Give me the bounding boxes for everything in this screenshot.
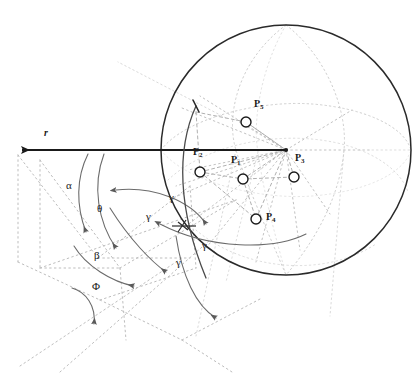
angle-label-theta: θ — [97, 203, 102, 214]
point-marker-P5 — [241, 117, 251, 127]
vector-origin-dot — [284, 148, 288, 152]
angle-label-beta: β — [94, 250, 100, 261]
angle-label-gamma-4: γ — [176, 257, 181, 268]
arc-beta — [74, 246, 134, 286]
angle-label-gamma-1: γ — [169, 192, 174, 203]
sphere-meridians — [118, 25, 412, 336]
diagram-svg — [0, 0, 420, 376]
angle-label-gamma-3: γ — [202, 240, 207, 251]
point-label-P5: P5 — [254, 99, 264, 111]
centre-fan-rays — [168, 96, 372, 262]
arc-gamma-1 — [116, 189, 206, 224]
point-marker-P1 — [238, 174, 248, 184]
arc-gamma-3 — [183, 106, 206, 278]
point-label-P3: P3 — [295, 153, 305, 165]
arc-gamma-2 — [110, 208, 166, 272]
point-marker-P2 — [195, 167, 205, 177]
point-label-P1: P1 — [231, 155, 241, 167]
vector-label-r: r — [44, 128, 48, 138]
angle-label-alpha: α — [66, 180, 72, 191]
angle-label-phi: Φ — [92, 281, 100, 292]
point-label-P4: P4 — [266, 212, 276, 224]
point-marker-P4 — [251, 214, 261, 224]
arc-alpha — [79, 154, 88, 232]
angle-label-gamma-2: γ — [146, 211, 151, 222]
figure-canvas: r P5 P2 P1 P3 P4 α θ β Φ γ γ γ γ — [0, 0, 420, 376]
point-markers — [195, 117, 299, 224]
point-label-P2: P2 — [193, 147, 203, 159]
arc-phi — [72, 288, 94, 324]
arc-theta — [98, 154, 116, 248]
point-marker-P3 — [289, 172, 299, 182]
construction-frame — [18, 155, 262, 372]
